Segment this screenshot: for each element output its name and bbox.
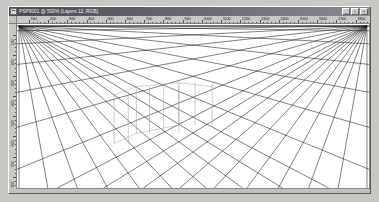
ruler-label: 1100 [223,16,231,21]
close-button[interactable]: × [360,8,368,15]
ruler-minor-tick [15,161,17,162]
ruler-minor-tick [15,124,17,125]
ruler-minor-tick [360,22,361,24]
ruler-minor-tick [167,22,168,24]
ruler-minor-tick [213,22,214,24]
ruler-minor-tick [340,22,341,24]
ruler-minor-tick [15,128,17,129]
ruler-minor-tick [15,181,17,182]
ruler-minor-tick [15,173,17,174]
perspective-line [309,26,367,188]
ruler-minor-tick [71,22,72,24]
ruler-minor-tick [237,22,238,24]
perspective-line [19,26,243,188]
ruler-minor-tick [171,22,172,24]
close-glyph: × [361,9,367,14]
perspective-line [19,26,172,188]
left-vanishing-rays [17,26,369,188]
ruler-minor-tick [37,22,38,24]
ruler-minor-tick [15,165,17,166]
ruler-minor-tick [15,63,17,64]
ruler-minor-tick [15,132,17,133]
ruler-minor-tick [117,22,118,24]
ruler-minor-tick [267,22,268,24]
ruler-minor-tick [179,22,180,24]
ruler-minor-tick [233,22,234,24]
ruler-minor-tick [175,22,176,24]
ruler-label: 800 [165,16,171,21]
ruler-label: 1800 [357,16,365,21]
perspective-line [143,26,367,188]
image-window[interactable]: PSP9001 @ 500% (Layers 12, RGB) _ ▫ × 10… [8,6,371,194]
ruler-label: 1500 [300,16,308,21]
ruler-minor-tick [94,22,95,24]
ruler-minor-tick [210,22,211,24]
right-vanishing-rays [17,26,367,188]
window-controls[interactable]: _ ▫ × [342,8,369,15]
ruler-label: 100 [30,16,36,21]
ruler-minor-tick [271,22,272,24]
ruler-minor-tick [52,22,53,24]
ruler-minor-tick [248,22,249,24]
ruler-minor-tick [15,144,17,145]
window-titlebar[interactable]: PSP9001 @ 500% (Layers 12, RGB) _ ▫ × [9,7,370,16]
ruler-minor-tick [252,22,253,24]
ruler-label: 1400 [280,16,288,21]
ruler-minor-tick [363,22,364,24]
perspective-line [19,26,369,169]
ruler-label: 1200 [242,16,250,21]
ruler-minor-tick [15,185,17,186]
ruler-minor-tick [15,84,17,85]
ruler-minor-tick [15,59,17,60]
perspective-line [19,26,206,188]
ruler-minor-tick [148,22,149,24]
ruler-minor-tick [15,108,17,109]
ruler-minor-tick [15,120,17,121]
ruler-label: 1700 [338,16,346,21]
ruler-minor-tick [310,22,311,24]
ruler-minor-tick [15,169,17,170]
ruler-minor-tick [194,22,195,24]
perspective-line [17,26,367,169]
ruler-minor-tick [15,39,17,40]
ruler-minor-tick [56,22,57,24]
perspective-grid-drawing[interactable] [17,24,369,188]
minimize-glyph: _ [343,9,349,14]
construction-boxes [114,83,212,144]
perspective-line [19,26,77,188]
ruler-minor-tick [302,22,303,24]
ruler-minor-tick [306,22,307,24]
ruler-minor-tick [15,104,17,105]
ruler-label: 1600 [319,16,327,21]
maximize-glyph: ▫ [352,9,358,14]
ruler-minor-tick [190,22,191,24]
ruler-minor-tick [15,88,17,89]
perspective-line [114,133,136,143]
perspective-line [17,26,367,92]
minimize-button[interactable]: _ [342,8,350,15]
ruler-minor-tick [348,22,349,24]
status-bar [9,189,370,193]
perspective-line [136,83,178,87]
perspective-line [278,26,367,188]
horizontal-ruler[interactable]: 1002003004005006007008009001000110012001… [17,16,370,24]
ruler-row: 1002003004005006007008009001000110012001… [9,16,370,24]
perspective-line [179,83,212,87]
vertical-ruler[interactable]: 100200300400500600700800 [9,24,17,189]
window-body: 100200300400500600700800 [9,24,370,189]
ruler-minor-tick [333,22,334,24]
ruler-label: 200 [50,16,56,21]
perspective-line [19,26,108,188]
ruler-minor-tick [352,22,353,24]
ruler-minor-tick [113,22,114,24]
ruler-minor-tick [129,22,130,24]
ruler-minor-tick [286,22,287,24]
ruler-minor-tick [75,22,76,24]
ruler-minor-tick [15,72,17,73]
ruler-minor-tick [15,140,17,141]
maximize-button[interactable]: ▫ [351,8,359,15]
ruler-minor-tick [217,22,218,24]
image-canvas[interactable] [17,24,370,189]
ruler-corner[interactable] [9,16,17,24]
ruler-minor-tick [121,22,122,24]
